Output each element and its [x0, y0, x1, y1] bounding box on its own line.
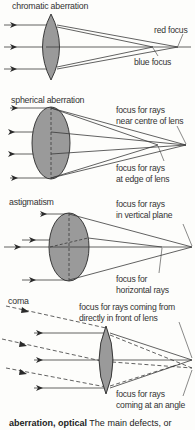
horizontal-focus-label-line2: horizontal rays [116, 285, 169, 295]
front-focus-label-line1: focus for rays coming from [79, 302, 175, 312]
caption-term: aberration, optical [9, 418, 87, 428]
vertical-plane-focus-label-line2: in vertical plane [116, 210, 172, 220]
edge-focus-label-line2: at edge of lens [116, 174, 169, 184]
spherical-aberration-title: spherical aberration [11, 95, 84, 105]
caption-text: The main defects, or [87, 418, 171, 428]
angle-focus-label-line2: coming at an angle [116, 400, 185, 410]
coma-title: coma [8, 296, 29, 306]
near-centre-focus-label-line1: focus for rays [116, 105, 165, 115]
coma-lens [99, 326, 113, 394]
chromatic-aberration-title: chromatic aberration [12, 1, 88, 11]
chromatic-aberration-panel [4, 14, 191, 80]
vertical-plane-focus-label-line1: focus for rays [116, 199, 165, 209]
front-focus-label-line2: directly in front of lens [79, 313, 158, 323]
near-centre-focus-label-line2: near centre of lens [116, 116, 183, 126]
astigmatism-panel [4, 211, 192, 283]
edge-focus-label-line1: focus for rays [116, 163, 165, 173]
horizontal-focus-label-line1: focus for [116, 274, 147, 284]
astigmatism-title: astigmatism [9, 197, 54, 207]
caption: aberration, optical The main defects, or [9, 418, 171, 429]
blue-focus-label: blue focus [134, 57, 171, 67]
angle-focus-label-line1: focus for rays [116, 389, 165, 399]
red-focus-label: red focus [154, 25, 188, 35]
